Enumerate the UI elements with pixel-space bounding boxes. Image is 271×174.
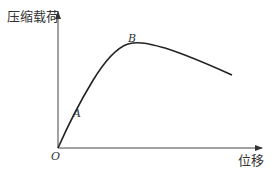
x-axis-label: 位移 [238,150,264,169]
point-a-label: A [73,107,81,120]
origin-label: O [51,150,60,163]
y-axis-label: 压缩载荷 [7,6,59,25]
load-curve [58,43,232,148]
load-displacement-diagram [0,0,271,174]
point-b-label: B [128,32,136,45]
